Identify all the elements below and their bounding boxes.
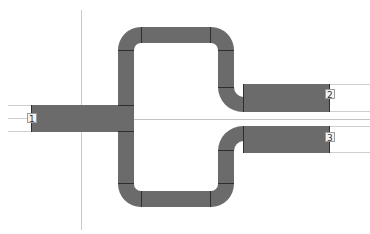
port-2-label[interactable]: 2 (325, 89, 335, 99)
loop-left-vertical[interactable] (118, 50, 134, 184)
loop-top-left-bend[interactable] (118, 27, 141, 50)
loop-top-right-bend[interactable] (211, 27, 234, 50)
loop-right-lower-vertical[interactable] (218, 151, 234, 184)
layout-canvas (0, 0, 370, 234)
port-3-label[interactable]: 3 (325, 132, 335, 142)
port3-bend[interactable] (218, 126, 243, 151)
traces (31, 27, 330, 207)
loop-bottom-right-bend[interactable] (211, 184, 234, 207)
port2-line[interactable] (243, 84, 330, 112)
port2-bend[interactable] (218, 87, 243, 112)
loop-right-upper-vertical[interactable] (218, 50, 234, 87)
port3-line[interactable] (243, 126, 330, 153)
port-1-label[interactable]: 1 (27, 113, 37, 123)
loop-top-horizontal[interactable] (141, 27, 211, 43)
loop-bottom-left-bend[interactable] (118, 184, 141, 207)
loop-bottom-horizontal[interactable] (141, 191, 211, 207)
